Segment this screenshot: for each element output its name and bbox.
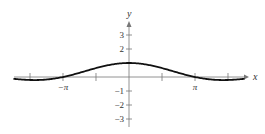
y-tick-label: −2 bbox=[114, 100, 124, 110]
x-axis-label: x bbox=[252, 71, 258, 82]
y-tick-label: −3 bbox=[114, 114, 124, 124]
x-tick-label: π bbox=[193, 82, 198, 92]
axes bbox=[14, 21, 249, 127]
x-arrow-icon bbox=[244, 75, 249, 80]
y-tick-label: 3 bbox=[120, 30, 125, 40]
y-tick-label: 2 bbox=[120, 44, 125, 54]
tick-labels: xy−ππ−3−2−123 bbox=[58, 8, 258, 124]
y-axis-label: y bbox=[126, 8, 132, 19]
function-graph: xy−ππ−3−2−123 bbox=[0, 0, 265, 134]
x-tick-label: −π bbox=[58, 82, 69, 92]
y-tick-label: −1 bbox=[114, 86, 124, 96]
y-arrow-icon bbox=[127, 21, 132, 27]
